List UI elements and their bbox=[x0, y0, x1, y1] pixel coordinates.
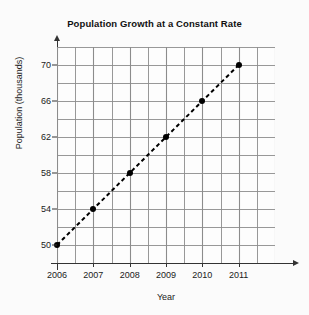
x-tick-label: 2008 bbox=[120, 270, 140, 280]
y-tick-mark bbox=[52, 209, 57, 210]
x-tick-mark bbox=[130, 263, 131, 267]
y-tick-label: 50 bbox=[41, 240, 51, 250]
y-tick-label: 62 bbox=[41, 132, 51, 142]
x-tick-mark bbox=[57, 263, 58, 267]
x-tick-label: 2007 bbox=[83, 270, 103, 280]
data-series-line bbox=[57, 47, 275, 263]
x-tick-mark bbox=[202, 263, 203, 267]
x-tick-label: 2009 bbox=[156, 270, 176, 280]
y-tick-label: 70 bbox=[41, 60, 51, 70]
x-tick-label: 2006 bbox=[47, 270, 67, 280]
y-tick-mark bbox=[52, 173, 57, 174]
x-axis-arrow-icon bbox=[293, 260, 299, 266]
x-axis-title: Year bbox=[57, 292, 275, 302]
x-tick-label: 2011 bbox=[229, 270, 248, 280]
chart-title: Population Growth at a Constant Rate bbox=[0, 18, 309, 29]
y-tick-label: 66 bbox=[41, 96, 51, 106]
x-axis-line bbox=[51, 263, 294, 264]
x-tick-label: 2010 bbox=[192, 270, 212, 280]
plot-area: 505458626670 200620072008200920102011 bbox=[57, 47, 275, 263]
y-axis-arrow-icon bbox=[54, 35, 60, 41]
y-axis-title: Population (thousands) bbox=[14, 33, 24, 173]
chart-figure: Population Growth at a Constant Rate Pop… bbox=[0, 0, 309, 315]
data-point bbox=[163, 134, 169, 140]
y-tick-mark bbox=[52, 101, 57, 102]
data-point bbox=[127, 170, 133, 176]
x-tick-mark bbox=[239, 263, 240, 267]
y-tick-label: 54 bbox=[41, 204, 51, 214]
y-tick-label: 58 bbox=[41, 168, 51, 178]
y-tick-mark bbox=[52, 137, 57, 138]
y-tick-mark bbox=[52, 65, 57, 66]
x-tick-mark bbox=[93, 263, 94, 267]
y-tick-mark bbox=[52, 245, 57, 246]
data-point bbox=[236, 62, 242, 68]
x-tick-mark bbox=[166, 263, 167, 267]
